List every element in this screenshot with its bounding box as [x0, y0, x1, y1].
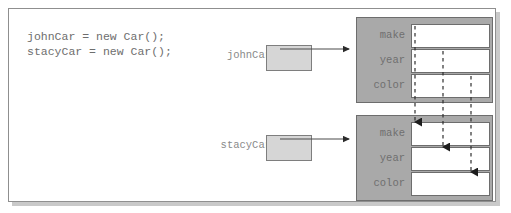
object-box-car-1[interactable]: make year color [356, 17, 493, 103]
object-field-color-1: color [361, 74, 490, 98]
object-field-year-2: year [361, 147, 490, 171]
object-field-make-2: make [361, 122, 490, 146]
field-label-year-1: year [361, 54, 405, 66]
field-value-year-2[interactable] [411, 147, 490, 171]
object-field-make-1: make [361, 24, 490, 48]
variable-box-stacycar[interactable] [266, 135, 312, 161]
field-value-make-2[interactable] [411, 122, 490, 146]
field-label-make-1: make [361, 29, 405, 41]
field-value-color-2[interactable] [411, 172, 490, 196]
object-field-color-2: color [361, 172, 490, 196]
field-label-make-2: make [361, 127, 405, 139]
code-snippet: johnCar = new Car(); stacyCar = new Car(… [27, 29, 172, 59]
field-value-make-1[interactable] [411, 24, 490, 48]
field-value-color-1[interactable] [411, 74, 490, 98]
field-label-color-1: color [361, 79, 405, 91]
field-label-year-2: year [361, 152, 405, 164]
variable-label-johncar: johnCar [211, 49, 271, 61]
object-box-car-2[interactable]: make year color [356, 115, 493, 201]
object-field-year-1: year [361, 49, 490, 73]
field-label-color-2: color [361, 177, 405, 189]
field-value-year-1[interactable] [411, 49, 490, 73]
variable-box-johncar[interactable] [266, 45, 312, 71]
diagram-frame: johnCar = new Car(); stacyCar = new Car(… [8, 8, 496, 202]
variable-label-stacycar: stacyCar [205, 139, 271, 151]
diagram-canvas: johnCar = new Car(); stacyCar = new Car(… [0, 0, 511, 213]
